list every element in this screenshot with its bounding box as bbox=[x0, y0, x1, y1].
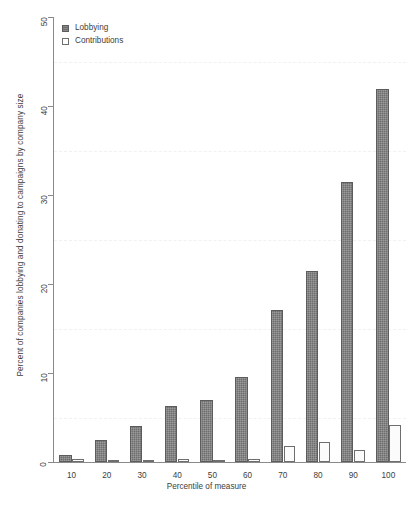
bar-lobbying bbox=[271, 310, 284, 462]
bar-contributions bbox=[354, 450, 366, 462]
x-axis-tick-label: 80 bbox=[302, 472, 334, 480]
bar-contributions bbox=[319, 442, 331, 462]
y-axis-tick-label: 30 bbox=[41, 195, 49, 204]
y-axis-tick-label: 50 bbox=[41, 17, 49, 26]
bar-group bbox=[95, 17, 120, 462]
filled-square-icon bbox=[62, 25, 69, 32]
bar-lobbying bbox=[306, 271, 319, 462]
bar-group bbox=[165, 17, 190, 462]
y-axis-tick: 30 bbox=[48, 195, 54, 196]
x-axis-tick-label: 40 bbox=[161, 472, 193, 480]
bar-group bbox=[306, 17, 331, 462]
bar-lobbying bbox=[130, 426, 143, 462]
bar-lobbying bbox=[165, 406, 178, 462]
x-axis-tick-label: 100 bbox=[372, 472, 404, 480]
x-axis-tick-label: 10 bbox=[56, 472, 88, 480]
bar-lobbying bbox=[376, 89, 389, 462]
open-square-icon bbox=[62, 38, 69, 45]
legend-label: Contributions bbox=[75, 37, 123, 45]
bar-group bbox=[271, 17, 296, 462]
y-axis-tick-label: 0 bbox=[41, 462, 49, 467]
bar-group bbox=[200, 17, 225, 462]
bar-contributions bbox=[389, 425, 401, 462]
x-axis-tick-label: 70 bbox=[267, 472, 299, 480]
x-axis-tick-label: 60 bbox=[232, 472, 264, 480]
bar-lobbying bbox=[341, 182, 354, 462]
y-axis-title: Percent of companies lobbying and donati… bbox=[16, 0, 30, 470]
plot-area: 01020304050 102030405060708090100 bbox=[54, 17, 406, 462]
x-axis-title: Percentile of measure bbox=[0, 482, 413, 491]
legend-item-contributions: Contributions bbox=[62, 35, 123, 48]
y-axis-tick-label: 10 bbox=[41, 373, 49, 382]
y-axis-tick-label: 20 bbox=[41, 284, 49, 293]
y-axis-tick: 10 bbox=[48, 373, 54, 374]
legend-item-lobbying: Lobbying bbox=[62, 22, 123, 35]
bar-group bbox=[235, 17, 260, 462]
bar-group bbox=[341, 17, 366, 462]
bar-lobbying bbox=[235, 377, 248, 462]
x-axis-line bbox=[52, 462, 406, 463]
x-axis-tick-label: 20 bbox=[91, 472, 123, 480]
y-axis-tick: 20 bbox=[48, 284, 54, 285]
y-axis-tick: 50 bbox=[48, 17, 54, 18]
bar-contributions bbox=[284, 446, 296, 462]
bar-lobbying bbox=[200, 400, 213, 462]
x-axis-tick-label: 90 bbox=[337, 472, 369, 480]
x-axis-tick-label: 50 bbox=[196, 472, 228, 480]
bar-lobbying bbox=[59, 455, 72, 462]
bar-group bbox=[59, 17, 84, 462]
y-axis-tick-label: 40 bbox=[41, 106, 49, 115]
bar-lobbying bbox=[95, 440, 108, 462]
bar-group bbox=[130, 17, 155, 462]
y-axis-tick: 40 bbox=[48, 106, 54, 107]
legend-label: Lobbying bbox=[75, 24, 108, 32]
chart-legend: Lobbying Contributions bbox=[62, 22, 123, 48]
x-axis-tick-label: 30 bbox=[126, 472, 158, 480]
bar-chart-figure: Percent of companies lobbying and donati… bbox=[0, 0, 413, 517]
bar-group bbox=[376, 17, 401, 462]
